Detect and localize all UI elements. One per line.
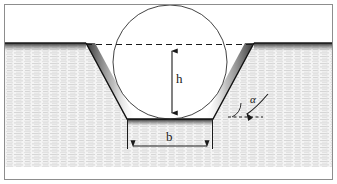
ground-soil-body [5, 43, 332, 167]
slope-angle-label: α [250, 94, 256, 105]
figure-canvas: h b α [0, 0, 337, 184]
height-label: h [176, 72, 183, 85]
trench-diagram [0, 0, 337, 184]
bottom-width-label: b [166, 130, 173, 143]
